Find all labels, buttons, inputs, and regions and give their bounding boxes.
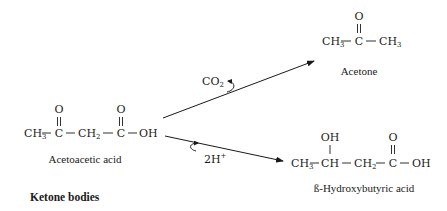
acetone-oxygen: O [354, 10, 363, 23]
acetoacetic-acid-structure: O O CH3 C CH2 C OH Acetoacetic acid [24, 103, 158, 165]
co2-label: CO2 [202, 75, 224, 89]
acetoacetic-acid-label: Acetoacetic acid [49, 153, 122, 165]
acetone-label: Acetone [341, 65, 378, 77]
ketone-bodies-diagram: O O CH3 C CH2 C OH Acetoacetic acid CO2 … [0, 0, 447, 211]
hydroxybutyric-ch3: CH3 [291, 157, 313, 171]
beta-hydroxybutyric-acid-structure: OH O CH3 CH CH2 C OH ß-Hydroxybutyric ac… [291, 131, 431, 194]
arrow-to-hydroxybutyric: 2H+ [165, 136, 283, 166]
beta-hydroxybutyric-acid-label: ß-Hydroxybutyric acid [314, 182, 415, 194]
acetoacetic-c1: C [55, 127, 63, 140]
2h-plus-label: 2H+ [204, 152, 227, 166]
arrow-to-acetone: CO2 [163, 61, 314, 118]
co2-release-curved-arrow [227, 81, 234, 92]
acetoacetic-oh: OH [139, 127, 158, 140]
acetoacetic-ch3: CH3 [24, 127, 46, 141]
carbonyl-oxygen: O [388, 131, 397, 144]
acetoacetic-carbonyl-oxygen-2: O [116, 103, 125, 116]
acetoacetic-c2: C [117, 127, 125, 140]
reaction-arrow-decarboxylation [163, 61, 314, 118]
acetone-ch3-left: CH3 [322, 35, 344, 49]
acetoacetic-ch2: CH2 [78, 127, 100, 141]
hydroxyl-oxygen-top: OH [321, 131, 340, 144]
acetone-carbon: C [355, 35, 363, 48]
diagram-title: Ketone bodies [30, 191, 100, 203]
acetoacetic-carbonyl-oxygen-1: O [54, 103, 63, 116]
acetone-structure: O CH3 C CH3 Acetone [322, 10, 401, 77]
hydroxybutyric-ch2: CH2 [354, 157, 376, 171]
hydroxybutyric-ch: CH [321, 157, 339, 170]
hydroxybutyric-carboxyl-c: C [389, 157, 397, 170]
2h-uptake-curved-arrow [191, 143, 198, 151]
hydroxybutyric-oh: OH [412, 157, 431, 170]
acetone-ch3-right: CH3 [379, 35, 401, 49]
